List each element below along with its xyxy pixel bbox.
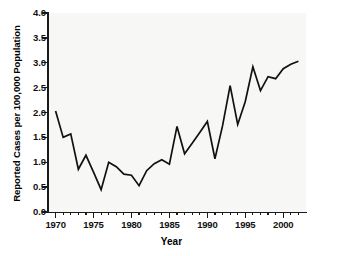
x-tick-1996 — [252, 212, 253, 215]
y-tick-label-0.5: 0.5 — [33, 181, 46, 192]
x-tick-1973 — [78, 212, 79, 215]
x-tick-1975 — [93, 212, 94, 218]
x-tick-label-2000: 2000 — [273, 219, 293, 230]
x-tick-1981 — [138, 212, 139, 215]
x-tick-1979 — [123, 212, 124, 215]
chart-figure: 0.00.51.01.52.02.53.03.54.0 197019751980… — [0, 0, 343, 256]
x-tick-1993 — [230, 212, 231, 215]
x-tick-label-1995: 1995 — [235, 219, 255, 230]
y-tick-label-0.0: 0.0 — [33, 206, 46, 217]
x-tick-1998 — [267, 212, 268, 215]
x-tick-label-1970: 1970 — [45, 219, 65, 230]
plot-area — [48, 13, 306, 212]
x-tick-1983 — [154, 212, 155, 215]
x-tick-label-1985: 1985 — [159, 219, 179, 230]
x-tick-1997 — [260, 212, 261, 215]
x-tick-1980 — [131, 212, 132, 218]
x-tick-1987 — [184, 212, 185, 215]
x-axis-title: Year — [0, 236, 343, 247]
x-tick-label-1980: 1980 — [121, 219, 141, 230]
x-tick-1991 — [214, 212, 215, 215]
x-tick-1995 — [245, 212, 246, 218]
y-tick-label-3.0: 3.0 — [33, 57, 46, 68]
x-tick-1984 — [161, 212, 162, 215]
x-tick-1971 — [63, 212, 64, 215]
x-tick-label-1990: 1990 — [197, 219, 217, 230]
x-tick-2000 — [283, 212, 284, 218]
x-tick-1978 — [116, 212, 117, 215]
x-tick-1977 — [108, 212, 109, 215]
x-tick-1970 — [55, 212, 56, 218]
data-line-series — [48, 13, 306, 212]
x-tick-1994 — [237, 212, 238, 215]
x-tick-label-1975: 1975 — [83, 219, 103, 230]
x-tick-1992 — [222, 212, 223, 215]
y-tick-label-4.0: 4.0 — [33, 7, 46, 18]
y-axis-title: Reported Cases per 100,000 Population — [11, 14, 22, 214]
y-tick-label-1.0: 1.0 — [33, 156, 46, 167]
x-tick-2001 — [290, 212, 291, 215]
data-line — [56, 61, 299, 189]
y-tick-label-2.5: 2.5 — [33, 82, 46, 93]
x-tick-1972 — [70, 212, 71, 215]
x-tick-1988 — [192, 212, 193, 215]
x-tick-1999 — [275, 212, 276, 215]
y-tick-label-2.0: 2.0 — [33, 107, 46, 118]
x-tick-1982 — [146, 212, 147, 215]
y-tick-label-3.5: 3.5 — [33, 32, 46, 43]
x-tick-1989 — [199, 212, 200, 215]
x-tick-2002 — [298, 212, 299, 215]
x-tick-1976 — [101, 212, 102, 215]
x-tick-1986 — [176, 212, 177, 215]
x-tick-1974 — [85, 212, 86, 215]
x-tick-1985 — [169, 212, 170, 218]
x-tick-1990 — [207, 212, 208, 218]
y-tick-label-1.5: 1.5 — [33, 131, 46, 142]
